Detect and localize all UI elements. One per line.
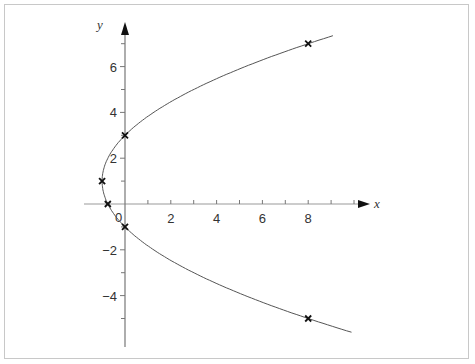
y-axis-label: y	[95, 17, 103, 32]
x-tick-label: 6	[259, 211, 266, 226]
x-axis-arrow-icon	[358, 200, 370, 208]
y-tick-label: −2	[102, 243, 117, 258]
x-marker-icon	[305, 316, 311, 322]
point-markers	[99, 41, 311, 322]
x-tick-label: 2	[167, 211, 174, 226]
parabola-chart: 2468 642−2−4 x y 0	[0, 0, 475, 364]
y-tick-label: −4	[102, 289, 117, 304]
x-marker-icon	[305, 41, 311, 47]
y-tick-label: 4	[110, 105, 117, 120]
y-ticks: 642−2−4	[102, 44, 125, 319]
y-tick-label: 6	[110, 60, 117, 75]
x-axis-label: x	[373, 196, 380, 211]
x-tick-label: 8	[305, 211, 312, 226]
x-tick-label: 4	[213, 211, 220, 226]
y-axis-arrow-icon	[121, 22, 129, 35]
axes	[84, 22, 370, 347]
parabola-curve	[102, 36, 351, 333]
